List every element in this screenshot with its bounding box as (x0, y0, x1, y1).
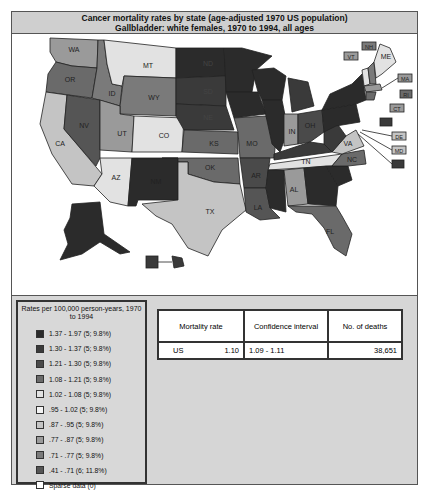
title-line-2: Gallbladder: white females, 1970 to 1994… (12, 23, 417, 33)
swatch-icon (36, 345, 44, 353)
swatch-icon (36, 451, 44, 459)
header-confidence-interval: Confidence interval (244, 310, 328, 342)
title-bar: Cancer mortality rates by state (age-adj… (12, 12, 417, 34)
legend-item: 1.37 - 1.97 (5; 9.8%) (18, 326, 145, 341)
state-NY (322, 74, 366, 110)
state-ND (176, 48, 226, 78)
svg-text:OH: OH (305, 122, 316, 129)
box-HI (146, 256, 158, 268)
state-CT (366, 92, 376, 100)
legend-item: .71 - .77 (5; 9.8%) (18, 448, 145, 463)
cell-mortality-rate: US 1.10 (158, 342, 244, 359)
svg-text:UT: UT (117, 130, 127, 137)
cell-confidence-interval: 1.09 - 1.11 (244, 342, 328, 359)
legend-item: 1.02 - 1.08 (5; 9.8%) (18, 387, 145, 402)
rate-value: 1.10 (224, 346, 239, 355)
svg-text:NC: NC (347, 156, 357, 163)
svg-text:ND: ND (203, 60, 213, 67)
legend-item: .87 - .95 (5; 9.8%) (18, 417, 145, 432)
svg-text:IN: IN (289, 128, 296, 135)
box-DC (392, 160, 404, 168)
legend-item: Sparse data (0) (18, 478, 145, 493)
legend-item: .41 - .71 (6; 11.8%) (18, 463, 145, 478)
svg-text:MT: MT (143, 62, 154, 69)
state-SD (176, 76, 226, 106)
svg-text:ME: ME (381, 53, 392, 60)
swatch-icon (36, 330, 44, 338)
swatch-icon (36, 360, 44, 368)
header-mortality-rate: Mortality rate (158, 310, 244, 342)
swatch-icon (36, 466, 44, 474)
svg-text:NH: NH (365, 44, 373, 50)
legend-item: 1.08 - 1.21 (5; 9.8%) (18, 372, 145, 387)
swatch-icon (36, 436, 44, 444)
svg-text:AR: AR (251, 172, 261, 179)
swatch-icon (36, 406, 44, 414)
svg-text:TN: TN (301, 158, 310, 165)
swatch-icon (36, 481, 44, 489)
svg-text:FL: FL (326, 228, 334, 235)
svg-text:TX: TX (206, 208, 215, 215)
svg-text:KS: KS (209, 140, 219, 147)
us-summary-table: Mortality rate Confidence interval No. o… (157, 309, 403, 360)
svg-text:DE: DE (395, 134, 403, 140)
cell-deaths: 38,651 (328, 342, 402, 359)
legend-title: Rates per 100,000 person-years, 1970 to … (18, 302, 145, 326)
state-MI (288, 78, 314, 112)
svg-text:CO: CO (159, 132, 170, 139)
legend-item: .77 - .87 (5; 9.8%) (18, 432, 145, 447)
svg-text:MD: MD (395, 148, 404, 154)
svg-text:VA: VA (344, 140, 353, 147)
legend-item: 1.30 - 1.37 (5; 9.8%) (18, 341, 145, 356)
svg-text:OK: OK (205, 164, 215, 171)
svg-text:NV: NV (79, 122, 89, 129)
svg-text:RI: RI (403, 92, 409, 98)
svg-text:LA: LA (254, 204, 263, 211)
svg-text:VT: VT (347, 54, 355, 60)
svg-text:AL: AL (290, 186, 299, 193)
svg-text:NM: NM (151, 178, 162, 185)
state-AZ (94, 158, 132, 206)
svg-text:MO: MO (246, 140, 258, 147)
svg-text:CA: CA (55, 140, 65, 147)
state-AK (60, 202, 130, 260)
legend-item: .95 - 1.02 (5; 9.8%) (18, 402, 145, 417)
svg-text:SD: SD (203, 88, 213, 95)
header-deaths: No. of deaths (328, 310, 402, 342)
state-ME (374, 44, 396, 78)
map-figure: Cancer mortality rates by state (age-adj… (11, 11, 418, 485)
svg-text:ID: ID (109, 90, 116, 97)
svg-text:CT: CT (393, 106, 401, 112)
us-map-svg: VT NH ME MA RI CT DE MD WA (12, 34, 417, 296)
svg-text:AZ: AZ (112, 174, 122, 181)
us-map: VT NH ME MA RI CT DE MD WA (12, 34, 417, 296)
svg-text:WA: WA (68, 46, 79, 53)
swatch-icon (36, 375, 44, 383)
legend: Rates per 100,000 person-years, 1970 to … (16, 300, 147, 484)
svg-text:WY: WY (148, 94, 160, 101)
legend-item: 1.21 - 1.30 (5; 9.8%) (18, 356, 145, 371)
region-label: US (163, 346, 183, 355)
state-FL (288, 206, 352, 256)
svg-text:MA: MA (401, 76, 410, 82)
svg-text:OR: OR (65, 76, 76, 83)
box-NJ (380, 118, 392, 126)
table-row: US 1.10 1.09 - 1.11 38,651 (158, 342, 402, 359)
swatch-icon (36, 421, 44, 429)
swatch-icon (36, 390, 44, 398)
state-HI (172, 256, 184, 268)
title-line-1: Cancer mortality rates by state (age-adj… (12, 13, 417, 23)
svg-text:NE: NE (203, 114, 213, 121)
